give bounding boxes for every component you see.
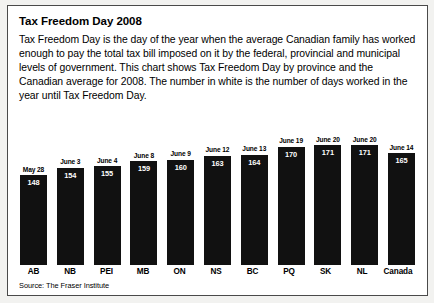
chart-bar-group: June 20171 <box>314 110 341 266</box>
bar-value-label: 155 <box>94 170 121 177</box>
bar-value-label: 163 <box>204 160 231 167</box>
chart-source-note: Source: The Fraser Institute <box>19 282 416 289</box>
bar-value-label: 171 <box>314 149 341 156</box>
chart-bar-group: June 9160 <box>167 110 194 266</box>
chart-bar: 171 <box>351 145 378 265</box>
x-axis-tick-label: NS <box>203 268 230 276</box>
bar-date-label: June 14 <box>390 145 414 152</box>
chart-bar: 165 <box>388 153 415 265</box>
bar-date-label: May 28 <box>23 167 44 174</box>
chart-bar: 155 <box>94 166 121 265</box>
bar-date-label: June 8 <box>134 153 154 160</box>
bar-value-label: 159 <box>130 165 157 172</box>
x-axis-tick-label: NL <box>349 268 376 276</box>
x-axis-tick-label: Canada <box>381 268 415 276</box>
chart-bar-group: June 3154 <box>57 110 84 266</box>
chart-bar-group: June 19170 <box>278 110 305 266</box>
bar-date-label: June 12 <box>206 147 230 154</box>
chart-bar-group: June 4155 <box>94 110 121 266</box>
chart-bar: 170 <box>278 147 305 266</box>
bar-date-label: June 3 <box>60 159 80 166</box>
chart-bar: 163 <box>204 156 231 266</box>
x-axis-tick-label: NB <box>57 268 84 276</box>
bar-value-label: 148 <box>20 179 47 186</box>
chart-bar: 148 <box>20 175 47 265</box>
x-axis-tick-label: BC <box>239 268 266 276</box>
chart-bar-group: June 13164 <box>241 110 268 266</box>
bar-date-label: June 20 <box>316 137 340 144</box>
x-axis-tick-label: ON <box>166 268 193 276</box>
chart-bar: 154 <box>57 168 84 266</box>
x-axis-tick-label: PQ <box>276 268 303 276</box>
chart-bar: 171 <box>314 145 341 265</box>
chart-bar-group: May 28148 <box>20 110 47 266</box>
x-axis-tick-label: MB <box>130 268 157 276</box>
chart-bar: 159 <box>130 161 157 265</box>
chart-bar: 160 <box>167 160 194 266</box>
chart-bar-group: June 14165 <box>388 110 415 266</box>
page-title: Tax Freedom Day 2008 <box>19 15 416 29</box>
bar-value-label: 154 <box>57 172 84 179</box>
chart-bar-group: June 8159 <box>130 110 157 266</box>
screenshot-root: Tax Freedom Day 2008 Tax Freedom Day is … <box>0 0 434 303</box>
chart-bar: 164 <box>241 155 268 266</box>
bar-date-label: June 20 <box>353 137 377 144</box>
infobox-panel: Tax Freedom Day 2008 Tax Freedom Day is … <box>7 5 428 296</box>
chart-bar-group: June 20171 <box>351 110 378 266</box>
bar-chart: May 28148June 3154June 4155June 8159June… <box>19 110 416 289</box>
bar-value-label: 160 <box>167 164 194 171</box>
bar-date-label: June 13 <box>242 146 266 153</box>
bar-value-label: 165 <box>388 157 415 164</box>
chart-x-axis-labels: ABNBPEIMBONNSBCPQSKNLCanada <box>19 268 416 276</box>
x-axis-tick-label: PEI <box>93 268 120 276</box>
bar-value-label: 170 <box>278 151 305 158</box>
bar-date-label: June 4 <box>97 158 117 165</box>
bar-value-label: 164 <box>241 159 268 166</box>
description-paragraph: Tax Freedom Day is the day of the year w… <box>19 33 416 103</box>
bar-date-label: June 9 <box>171 151 191 158</box>
x-axis-tick-label: SK <box>312 268 339 276</box>
bar-value-label: 171 <box>351 149 378 156</box>
chart-plot-area: May 28148June 3154June 4155June 8159June… <box>19 110 416 266</box>
chart-bar-group: June 12163 <box>204 110 231 266</box>
x-axis-tick-label: AB <box>20 268 47 276</box>
bar-date-label: June 19 <box>279 138 303 145</box>
